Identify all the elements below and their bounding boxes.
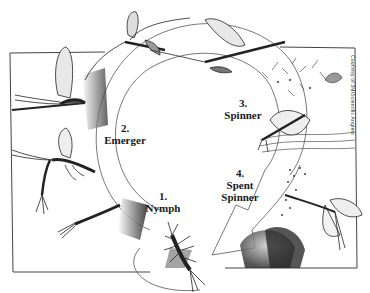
- stage-number: 3.: [218, 97, 268, 109]
- stage-label-spent-spinner: 4. Spent Spinner: [215, 167, 265, 203]
- mayfly-dun-left: [12, 47, 85, 110]
- stage-name: Spent: [215, 179, 265, 191]
- stage-name: Spinner: [218, 109, 268, 121]
- stage-name: Nymph: [140, 202, 186, 214]
- illustration: [0, 0, 370, 293]
- image-credit: Courtesy of 3M/Scientific Anglers: [346, 55, 356, 135]
- stage-label-emerger: 2. Emerger: [100, 122, 150, 146]
- mayfly-spinner-top: [150, 19, 285, 73]
- stage-label-spinner: 3. Spinner: [218, 97, 268, 121]
- stage-label-nymph: 1. Nymph: [140, 190, 186, 214]
- mayfly-nymph-swimming: [58, 205, 120, 238]
- stage-number: 2.: [100, 122, 150, 134]
- stage-number: 1.: [140, 190, 186, 202]
- mayfly-life-cycle-diagram: 2. Emerger 3. Spinner 4. Spent Spinner 1…: [0, 0, 370, 293]
- mayfly-emerger: [12, 128, 95, 214]
- stage-number: 4.: [215, 167, 265, 179]
- stage-name: Emerger: [100, 134, 150, 146]
- stage-name-2: Spinner: [215, 191, 265, 203]
